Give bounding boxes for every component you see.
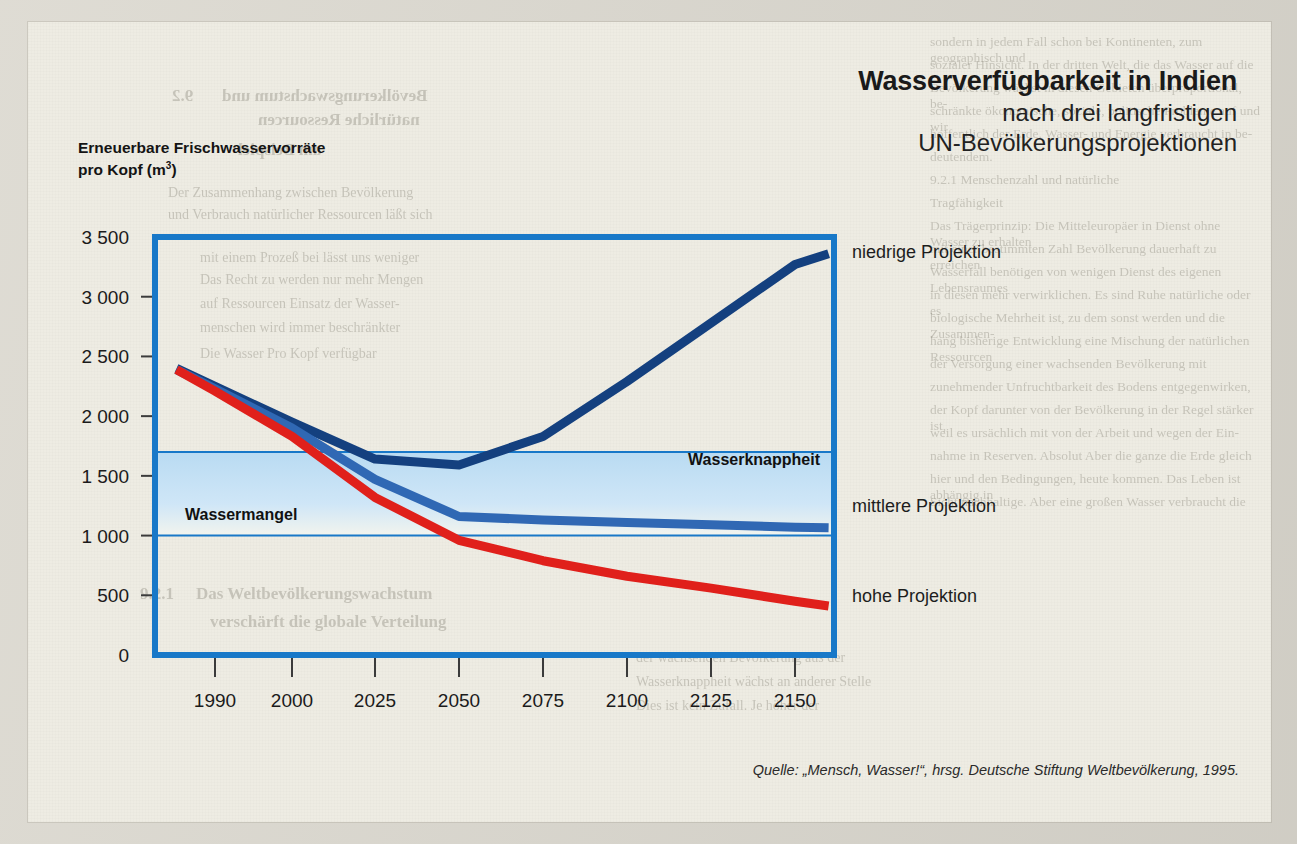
x-tick-label-4: 2075	[522, 690, 564, 711]
x-tick-label-1: 2000	[271, 690, 313, 711]
x-tick-label-5: 2100	[606, 690, 648, 711]
y-axis-title-line1: Erneuerbare Frischwasservorräte	[78, 138, 325, 159]
page-title: Wasserverfügbarkeit in Indien	[858, 66, 1237, 97]
y-tick-label-5: 2 500	[81, 346, 129, 367]
title-block: Wasserverfügbarkeit in Indien nach drei …	[858, 66, 1237, 156]
y-axis-title-line2: pro Kopf (m3)	[78, 159, 325, 181]
y-axis-title: Erneuerbare Frischwasservorräte pro Kopf…	[78, 138, 325, 181]
y-tick-label-1: 500	[97, 585, 129, 606]
y-tick-label-4: 2 000	[81, 406, 129, 427]
y-tick-label-6: 3 000	[81, 287, 129, 308]
page-subtitle-line1: nach drei langfristigen	[858, 99, 1237, 127]
x-tick-label-0: 1990	[194, 690, 236, 711]
x-tick-label-2: 2025	[354, 690, 396, 711]
series-label-2: hohe Projektion	[852, 586, 977, 606]
series-label-0: niedrige Projektion	[852, 242, 1001, 262]
figure-page: Bevölkerungswachstum undnatürliche Resso…	[0, 0, 1297, 844]
band-label-wassermangel: Wassermangel	[185, 506, 297, 523]
series-line-0	[177, 254, 829, 465]
source-caption: Quelle: „Mensch, Wasser!“, hrsg. Deutsch…	[753, 762, 1239, 778]
y-tick-label-0: 0	[118, 645, 129, 666]
series-label-1: mittlere Projektion	[852, 496, 996, 516]
page-subtitle-line2: UN-Bevölkerungsprojektionen	[858, 129, 1237, 157]
x-tick-label-6: 2125	[690, 690, 732, 711]
band-label-wasserknappheit: Wasserknappheit	[688, 451, 821, 468]
y-tick-label-7: 3 500	[81, 227, 129, 248]
x-tick-label-3: 2050	[438, 690, 480, 711]
y-tick-label-2: 1 000	[81, 526, 129, 547]
x-tick-label-7: 2150	[774, 690, 816, 711]
y-tick-label-3: 1 500	[81, 466, 129, 487]
